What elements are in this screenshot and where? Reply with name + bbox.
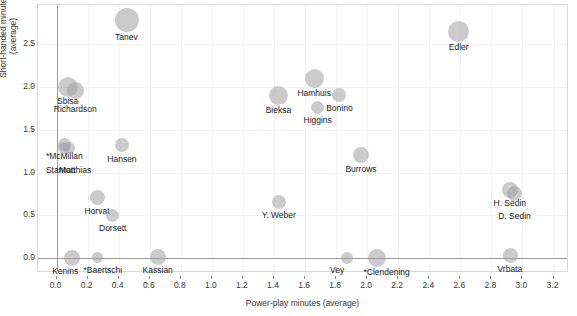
data-point-label: Edler — [449, 43, 469, 52]
data-point-label: D. Sedin — [498, 212, 531, 221]
x-tick-mark — [459, 276, 460, 279]
plot-panel: TanevEdlerSbisaRichardsonHamhuisBoninoBi… — [37, 4, 568, 272]
gridline-vertical — [88, 5, 89, 271]
data-point-bubble[interactable] — [115, 8, 139, 32]
y-tick-label: 0.5 — [3, 209, 35, 219]
gridline-vertical — [150, 5, 151, 271]
x-tick-mark — [180, 276, 181, 279]
data-point-bubble[interactable] — [448, 21, 469, 42]
x-tick-mark — [428, 276, 429, 279]
data-point-bubble[interactable] — [272, 195, 286, 209]
y-tick-label: 0.0 — [3, 252, 35, 262]
gridline-vertical — [554, 5, 555, 271]
gridline-vertical — [181, 5, 182, 271]
data-point-label: Tanev — [115, 33, 138, 42]
data-point-label: Bonino — [326, 104, 352, 113]
x-tick-mark — [366, 276, 367, 279]
x-tick-mark — [149, 276, 150, 279]
data-point-label: Burrows — [345, 165, 376, 174]
data-point-label: Hamhuis — [297, 89, 331, 98]
data-point-label: H. Sedin — [494, 199, 527, 208]
y-tick-mark — [32, 43, 35, 44]
x-axis-label: Power-play minutes (average) — [37, 298, 568, 308]
gridline-vertical — [398, 5, 399, 271]
data-point-bubble[interactable] — [64, 250, 80, 266]
y-tick-mark — [32, 214, 35, 215]
data-point-bubble[interactable] — [90, 190, 105, 205]
x-axis-ticks: 0.00.20.40.60.81.01.21.41.61.82.02.22.42… — [37, 276, 568, 290]
x-tick-label: 3.2 — [533, 280, 573, 290]
gridline-vertical — [429, 5, 430, 271]
data-point-bubble[interactable] — [507, 186, 522, 201]
gridline-horizontal — [38, 130, 567, 131]
y-tick-label: 1.5 — [3, 124, 35, 134]
y-axis-label: Short-handed minutes (average) — [0, 0, 18, 96]
data-point-label: *Baertschi — [84, 266, 123, 275]
y-tick-mark — [32, 86, 35, 87]
data-point-bubble[interactable] — [67, 82, 84, 99]
x-tick-mark — [490, 276, 491, 279]
x-tick-mark — [87, 276, 88, 279]
reference-line-y-zero — [38, 258, 567, 259]
data-point-bubble[interactable] — [305, 69, 324, 88]
data-point-bubble[interactable] — [332, 88, 346, 102]
gridline-vertical — [491, 5, 492, 271]
data-point-label: Kenins — [52, 267, 78, 276]
data-point-label: Dorsett — [99, 224, 126, 233]
y-tick-mark — [32, 172, 35, 173]
data-point-bubble[interactable] — [150, 249, 166, 265]
x-tick-mark — [335, 276, 336, 279]
gridline-horizontal — [38, 44, 567, 45]
data-point-bubble[interactable] — [92, 252, 103, 263]
data-point-bubble[interactable] — [311, 101, 324, 114]
x-tick-mark — [273, 276, 274, 279]
data-point-label: Vey — [330, 266, 344, 275]
data-point-label: Richardson — [54, 105, 97, 114]
data-point-bubble[interactable] — [106, 209, 119, 222]
x-tick-mark — [521, 276, 522, 279]
x-tick-mark — [242, 276, 243, 279]
data-point-label: Matthias — [59, 166, 91, 175]
y-tick-label: 1.0 — [3, 167, 35, 177]
data-point-bubble[interactable] — [115, 138, 129, 152]
y-tick-mark — [32, 257, 35, 258]
data-point-bubble[interactable] — [269, 86, 288, 105]
gridline-vertical — [212, 5, 213, 271]
x-tick-mark — [56, 276, 57, 279]
gridline-vertical — [274, 5, 275, 271]
x-tick-mark — [118, 276, 119, 279]
x-tick-mark — [553, 276, 554, 279]
data-point-label: Bieksa — [266, 106, 292, 115]
data-point-bubble[interactable] — [368, 249, 386, 267]
data-point-label: Hansen — [107, 155, 136, 164]
data-point-bubble[interactable] — [341, 252, 353, 264]
x-tick-mark — [211, 276, 212, 279]
y-tick-mark — [32, 129, 35, 130]
gridline-vertical — [243, 5, 244, 271]
gridline-vertical — [305, 5, 306, 271]
data-point-label: Y. Weber — [262, 211, 296, 220]
data-point-label: Higgins — [304, 116, 332, 125]
data-point-label: Vrbata — [498, 265, 523, 274]
gridline-vertical — [367, 5, 368, 271]
x-tick-mark — [397, 276, 398, 279]
reference-line-x-zero — [57, 5, 58, 271]
gridline-vertical — [336, 5, 337, 271]
gridline-horizontal — [38, 173, 567, 174]
gridline-vertical — [522, 5, 523, 271]
scatter-plot-figure: TanevEdlerSbisaRichardsonHamhuisBoninoBi… — [0, 0, 577, 316]
data-point-label: Kassian — [143, 266, 173, 275]
x-tick-mark — [304, 276, 305, 279]
data-point-bubble[interactable] — [503, 248, 518, 263]
